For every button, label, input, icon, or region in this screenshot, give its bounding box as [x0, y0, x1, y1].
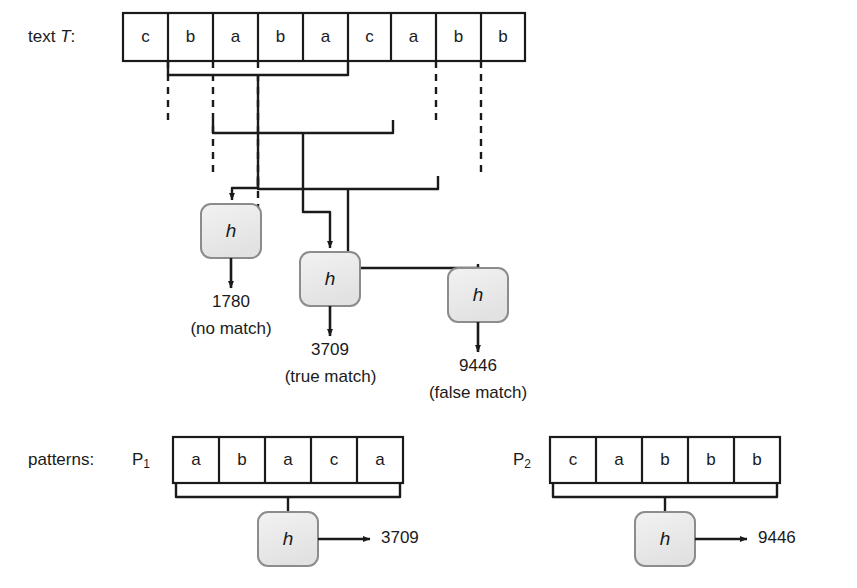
- pattern-1-cell-0: a: [173, 450, 219, 470]
- hash-1-value: 1780: [171, 292, 291, 312]
- figure-canvas: text T: c b a b a c a b b h h h 1780 (no…: [0, 0, 857, 588]
- hash-box-1-glyph: h: [201, 220, 261, 242]
- text-row-label-prefix: text: [28, 27, 60, 46]
- window-bracket-3: [258, 176, 438, 262]
- text-cell-7: b: [436, 27, 481, 47]
- pattern-2-cell-0: c: [550, 450, 596, 470]
- pattern-2-hash-glyph: h: [635, 528, 695, 550]
- pattern-2-cell-1: a: [596, 450, 642, 470]
- text-cell-8: b: [481, 27, 525, 47]
- text-cell-2: a: [213, 27, 258, 47]
- text-cell-6: a: [391, 27, 436, 47]
- text-row-label-suffix: :: [71, 27, 76, 46]
- hash1-connector: [232, 182, 258, 200]
- pattern-2-name-letter: P: [513, 450, 524, 469]
- pattern-1-cell-4: a: [357, 450, 403, 470]
- text-cell-5: c: [348, 27, 391, 47]
- pattern-2-name: P2: [513, 450, 531, 470]
- pattern-2-cell-4: b: [734, 450, 780, 470]
- pattern-1-name-subscript: 1: [143, 457, 150, 471]
- pattern-1-cell-1: b: [219, 450, 265, 470]
- pattern-1-bracket: [176, 483, 400, 512]
- text-row-label: text T:: [28, 27, 75, 47]
- alignment-guides: [168, 61, 481, 228]
- pattern-2-name-subscript: 2: [524, 457, 531, 471]
- pattern-1-cell-2: a: [265, 450, 311, 470]
- pattern-2-cell-3: b: [688, 450, 734, 470]
- text-row-label-symbol: T: [60, 27, 70, 46]
- hash-box-3-glyph: h: [448, 284, 508, 306]
- window-bracket-2: [213, 120, 393, 206]
- text-cell-4: a: [303, 27, 348, 47]
- hash-3-note: (false match): [400, 383, 556, 403]
- hash-box-2-glyph: h: [300, 268, 360, 290]
- pattern-2-cell-2: b: [642, 450, 688, 470]
- text-cell-0: c: [123, 27, 168, 47]
- pattern-2-bracket: [553, 483, 777, 512]
- pattern-1-hash-value: 3709: [381, 528, 419, 548]
- text-cell-1: b: [168, 27, 213, 47]
- patterns-row-label: patterns:: [28, 450, 94, 470]
- hash2-connector: [303, 206, 330, 248]
- pattern-1-cell-3: c: [311, 450, 357, 470]
- hash-3-value: 9446: [418, 356, 538, 376]
- hash-1-note: (no match): [161, 319, 301, 339]
- window-bracket-1: [168, 61, 348, 182]
- pattern-2-hash-value: 9446: [758, 528, 796, 548]
- pattern-1-name-letter: P: [132, 450, 143, 469]
- pattern-1-name: P1: [132, 450, 150, 470]
- text-cell-3: b: [258, 27, 303, 47]
- hash-2-note: (true match): [258, 367, 403, 387]
- pattern-1-hash-glyph: h: [258, 528, 318, 550]
- hash-2-value: 3709: [270, 340, 390, 360]
- diagram-vector-layer: [0, 0, 857, 588]
